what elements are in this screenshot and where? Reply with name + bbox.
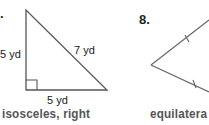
problem-number-8: 8. [139, 12, 150, 27]
right-angle-marker [26, 80, 37, 90]
problem-number-7: . [0, 6, 4, 21]
classification-label-8: equilatera [150, 106, 207, 121]
hypotenuse-label: 7 yd [74, 44, 95, 56]
classification-label-7: isosceles, right [2, 106, 90, 121]
right-triangle [26, 10, 107, 90]
tick-mark-lower [193, 80, 196, 88]
side-left-label: 5 yd [0, 48, 21, 60]
equilateral-triangle-partial [151, 20, 209, 92]
side-bottom-label: 5 yd [47, 94, 68, 106]
